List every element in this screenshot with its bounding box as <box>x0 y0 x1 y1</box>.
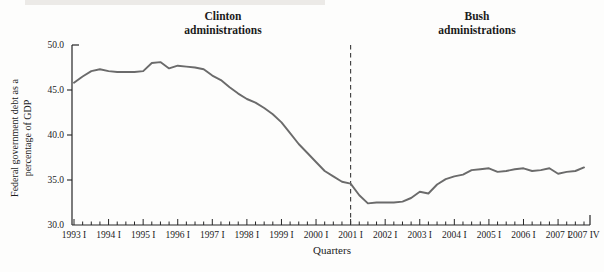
line-chart: 30.035.040.045.050.01993 I1994 I1995 I19… <box>0 0 604 272</box>
x-tick-label: 1999 I <box>269 230 294 240</box>
x-tick-label: 2006 I <box>511 230 536 240</box>
y-axis-title-line1: Federal government debt as a <box>9 40 22 236</box>
x-tick-label: 1995 I <box>131 230 156 240</box>
x-tick-label: 2003 I <box>407 230 432 240</box>
x-tick-label: 2004 I <box>442 230 467 240</box>
y-tick-label: 45.0 <box>47 85 64 95</box>
x-tick-label: 1998 I <box>235 230 260 240</box>
y-tick-label: 30.0 <box>47 220 64 230</box>
debt-series-line <box>74 62 584 203</box>
x-tick-label: 2007 IV <box>568 230 600 240</box>
x-tick-label: 2007 I <box>546 230 571 240</box>
x-tick-label: 2001 I <box>338 230 363 240</box>
x-tick-label: 1994 I <box>96 230 121 240</box>
x-tick-label: 1996 I <box>165 230 190 240</box>
x-tick-label: 2005 I <box>477 230 502 240</box>
x-axis-title: Quarters <box>280 244 384 256</box>
y-tick-label: 40.0 <box>47 130 64 140</box>
y-axis-title-line2: percentage of GDP <box>22 40 35 236</box>
y-tick-label: 35.0 <box>47 175 64 185</box>
debt-gdp-figure: Clinton administrations Bush administrat… <box>0 0 604 272</box>
x-tick-label: 1993 I <box>62 230 87 240</box>
x-tick-label: 2002 I <box>373 230 398 240</box>
y-axis-title: Federal government debt as a percentage … <box>9 40 35 236</box>
x-tick-label: 1997 I <box>200 230 225 240</box>
x-tick-label: 2000 I <box>304 230 329 240</box>
y-tick-label: 50.0 <box>47 40 64 50</box>
